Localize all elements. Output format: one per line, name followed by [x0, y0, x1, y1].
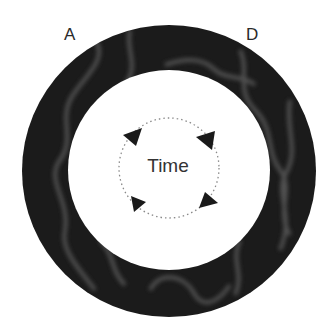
center-label: Time [0, 155, 336, 177]
